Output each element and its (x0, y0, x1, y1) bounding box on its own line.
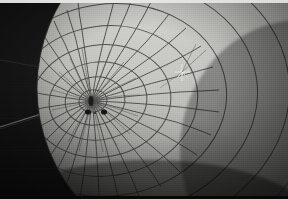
photo-stage (0, 0, 288, 199)
cross-fitting (160, 44, 206, 88)
detail-layer (0, 0, 288, 199)
top-edge-strip (0, 0, 288, 3)
marker-blob-right (101, 109, 107, 114)
guy-line-upper-right (182, 50, 206, 72)
pole-markers (84, 95, 107, 115)
guy-line-upper (182, 44, 196, 72)
pole-halo (84, 95, 102, 111)
marker-blob-small (94, 112, 96, 114)
bottom-edge-strip (0, 196, 288, 199)
photo-frame: Close photograph of a large light gray s… (0, 0, 288, 199)
guy-line-lower-left (160, 72, 182, 88)
